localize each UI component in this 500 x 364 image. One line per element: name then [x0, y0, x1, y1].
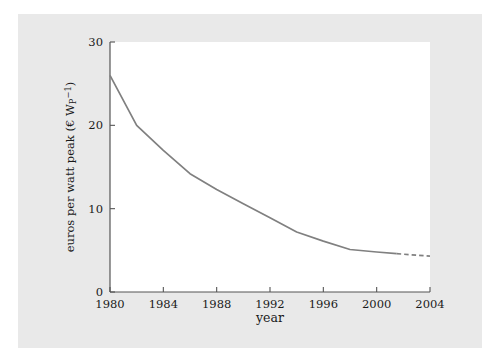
y-tick-label: 30 [88, 35, 103, 49]
y-tick-label: 10 [88, 202, 103, 216]
figure-root: 1980198419881992199620002004 0102030 yea… [0, 0, 500, 364]
y-tick-label: 0 [96, 285, 103, 299]
y-axis-label-tail: ) [63, 82, 77, 87]
plot-area-background [110, 42, 430, 292]
svg-text:euros per watt peak (€ WP−1): euros per watt peak (€ WP−1) [63, 82, 78, 253]
y-axis-label-main: euros per watt peak (€ W [63, 104, 77, 252]
x-tick-label: 1980 [95, 297, 124, 311]
x-tick-label: 2004 [415, 297, 444, 311]
y-axis-label-superscript: −1 [63, 86, 73, 98]
x-tick-label: 1988 [202, 297, 231, 311]
chart-canvas: 1980198419881992199620002004 0102030 yea… [0, 0, 500, 364]
x-tick-label: 1992 [255, 297, 284, 311]
x-axis-label: year [255, 310, 284, 325]
x-tick-label: 2000 [362, 297, 391, 311]
y-axis-label: euros per watt peak (€ WP−1) [63, 82, 78, 253]
x-tick-label: 1984 [149, 297, 178, 311]
x-tick-label: 1996 [309, 297, 338, 311]
y-tick-label: 20 [88, 118, 103, 132]
